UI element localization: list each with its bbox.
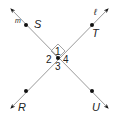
point-label-s: S [34,18,42,30]
angle-label-1: 1 [55,46,61,57]
point-label-u: U [92,101,100,113]
perpendicular-lines-diagram: m ℓ STRU 1 2 4 3 [0,0,114,120]
point-u [90,89,94,93]
angle-label-3: 3 [55,61,61,72]
line-label-m: m [15,17,21,24]
point-s [24,23,28,27]
point-label-t: T [92,27,100,39]
angle-label-4: 4 [63,54,69,65]
point-r [24,89,28,93]
line-label-l: ℓ [93,7,97,17]
angle-label-2: 2 [46,54,52,65]
point-label-r: R [18,101,26,113]
